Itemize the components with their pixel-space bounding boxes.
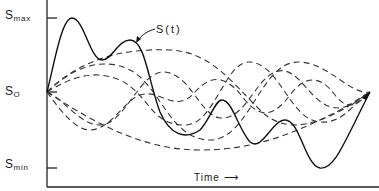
signal-pointer: [136, 29, 155, 43]
component-curve-6: [47, 92, 370, 150]
label-smax: Smax: [5, 8, 31, 23]
component-curve-2: [47, 62, 370, 140]
label-signal: S(t): [156, 23, 182, 35]
label-time-axis: Time ⟶: [194, 172, 239, 183]
component-curves: [47, 50, 370, 150]
label-smin: Smin: [5, 157, 29, 172]
component-curve-1: [47, 50, 370, 125]
axes: [47, 0, 379, 187]
component-curve-3: [47, 62, 370, 125]
signal-curve-s-t: [47, 18, 370, 168]
label-s0: SO: [5, 84, 21, 99]
signal-diagram: [0, 0, 379, 191]
